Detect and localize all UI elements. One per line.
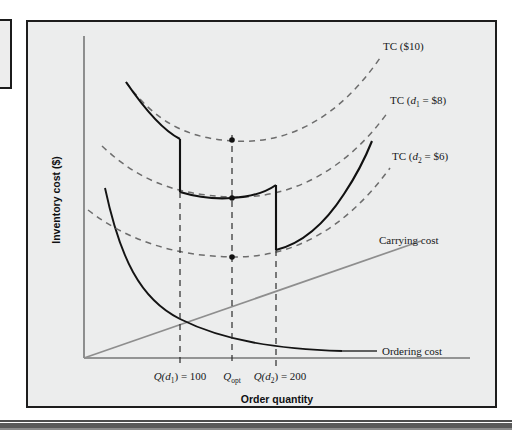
tc-d1-solid-segment	[180, 185, 276, 198]
tc-d2-solid-segment	[276, 141, 372, 250]
tc-d1-dashed-curve	[102, 112, 388, 197]
curve-label-tc-10-group: TC ($10)	[383, 40, 424, 53]
curve-label-tc-d1-group: TC (d1 = $8)	[390, 94, 446, 109]
carrying-cost-label: Carrying cost	[379, 234, 439, 246]
curve-label-tc-d2: TC (d2 = $6)	[392, 150, 448, 165]
carrying-cost-line	[84, 241, 421, 358]
curve-label-tc-d2-group: TC (d2 = $6)	[392, 150, 448, 165]
figure-frame: TC ($10) TC (d1 = $8) TC (d2 = $6) Carry…	[26, 20, 497, 408]
curve-label-tc-d1: TC (d1 = $8)	[390, 94, 446, 109]
curve-label-tc-10: TC ($10)	[383, 40, 424, 53]
q-opt-markers	[229, 137, 235, 260]
ordering-cost-annotation: Ordering cost	[342, 345, 442, 357]
x-tick-labels: Q(d1) = 100 Qopt Q(d2) = 200	[154, 370, 307, 385]
carrying-cost-annotation: Carrying cost	[379, 234, 439, 246]
x-tick-label-q-opt: Qopt	[223, 370, 241, 385]
ordering-cost-label: Ordering cost	[382, 345, 442, 357]
bottom-decorative-bar	[0, 419, 512, 430]
screenshot-root: TC ($10) TC (d1 = $8) TC (d2 = $6) Carry…	[0, 0, 519, 437]
marker-dot-tc-10	[229, 137, 235, 143]
left-edge-fragment	[0, 19, 12, 89]
x-tick-label-q-d1: Q(d1) = 100	[154, 370, 207, 385]
tc-10-solid-segment	[126, 82, 180, 139]
tc-d2-dashed-curve	[88, 168, 390, 257]
quantity-discount-chart: TC ($10) TC (d1 = $8) TC (d2 = $6) Carry…	[28, 22, 495, 406]
x-tick-label-q-d2: Q(d2) = 200	[254, 370, 307, 385]
x-axis-title: Order quantity	[241, 393, 314, 405]
marker-dot-tc-d2	[229, 254, 235, 260]
y-axis-title: Inventory cost ($)	[50, 156, 62, 244]
vertical-guides	[180, 135, 276, 366]
ordering-cost-curve	[105, 188, 342, 351]
marker-dot-tc-d1	[229, 195, 235, 201]
figure-inner: TC ($10) TC (d1 = $8) TC (d2 = $6) Carry…	[28, 22, 495, 406]
